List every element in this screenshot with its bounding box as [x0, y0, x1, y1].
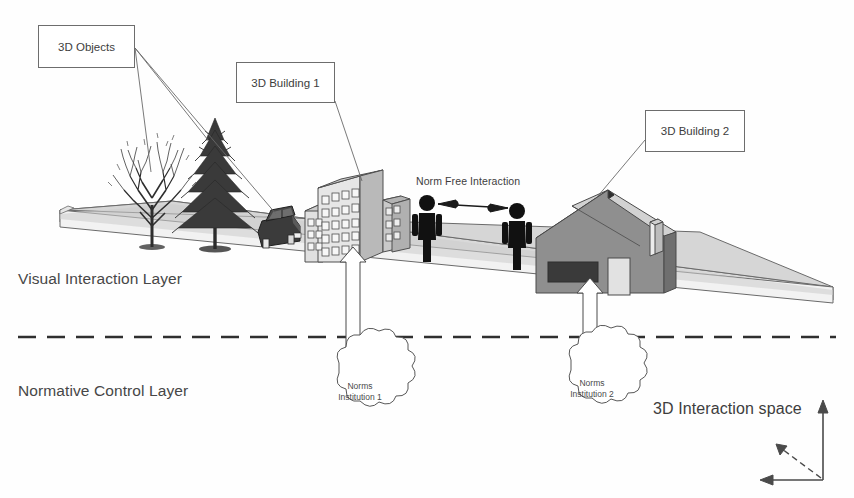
annotation-norm-free-interaction: Norm Free Interaction — [416, 175, 520, 187]
diagram-canvas: 3D Objects 3D Building 1 3D Building 2 N… — [0, 0, 854, 498]
callout-3d-objects-label: 3D Objects — [58, 41, 115, 53]
axis-label-3d-interaction-space: 3D Interaction space — [653, 400, 802, 418]
norms-institution-1-cloud — [337, 328, 415, 406]
callout-3d-building-2-label: 3D Building 2 — [661, 125, 729, 137]
building-2-house — [536, 190, 676, 295]
car — [258, 206, 301, 248]
callout-3d-building-1-label: 3D Building 1 — [251, 77, 319, 89]
callout-3d-objects[interactable]: 3D Objects — [38, 25, 135, 68]
callout-3d-building-1[interactable]: 3D Building 1 — [236, 62, 335, 103]
diagram-illustration — [0, 0, 854, 498]
layer-label-normative-control: Normative Control Layer — [18, 382, 188, 400]
building-1 — [305, 170, 410, 262]
norm-free-interaction-arrow — [438, 200, 508, 212]
callout-3d-building-2[interactable]: 3D Building 2 — [645, 110, 745, 152]
norms-institution-2-cloud — [569, 325, 647, 403]
layer-label-visual-interaction: Visual Interaction Layer — [18, 270, 182, 288]
